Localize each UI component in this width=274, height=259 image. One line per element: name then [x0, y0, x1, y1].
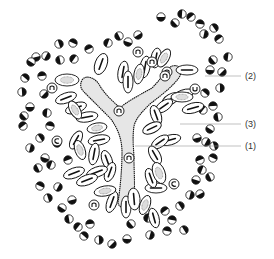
round-cell: [65, 215, 73, 223]
oval-cell: [92, 52, 111, 77]
lymphocyte-cell: [52, 136, 62, 146]
round-cell: [201, 89, 209, 97]
lymphocyte-cell: [114, 106, 124, 116]
round-cell: [215, 35, 223, 43]
round-cell: [85, 45, 93, 53]
oval-cell: [123, 71, 133, 93]
round-cell: [198, 166, 206, 174]
round-cell: [27, 58, 35, 66]
round-cell: [43, 109, 51, 117]
round-cell: [41, 154, 49, 162]
round-cell: [163, 227, 171, 235]
round-cell: [58, 204, 66, 212]
round-cell: [127, 220, 135, 228]
round-cell: [216, 84, 224, 92]
round-cell: [209, 102, 217, 110]
round-cell: [209, 154, 217, 162]
round-cell: [38, 72, 46, 80]
round-cell: [47, 161, 55, 169]
round-cell: [161, 207, 169, 215]
lymphocyte-cell: [89, 200, 99, 210]
round-cell: [26, 103, 34, 111]
lymphocyte-cell: [190, 84, 200, 94]
round-cell: [206, 125, 214, 133]
lymphocyte-cell: [124, 153, 134, 163]
round-cell: [192, 176, 200, 184]
round-cell: [180, 226, 188, 234]
diagram-canvas: [0, 0, 274, 259]
round-cell: [224, 53, 232, 61]
round-cell: [19, 122, 27, 130]
granular-cell: [171, 92, 193, 102]
round-cell: [157, 13, 165, 21]
round-cell: [56, 56, 64, 64]
label-3: (3): [245, 119, 256, 129]
round-cell: [74, 223, 82, 231]
round-cell: [200, 30, 208, 38]
lymphocyte-cell: [47, 83, 57, 93]
label-2: (2): [245, 71, 256, 81]
round-cell: [214, 113, 222, 121]
lymphocyte-cell: [133, 47, 143, 57]
round-cell: [206, 173, 214, 181]
round-cell: [146, 231, 154, 239]
oval-cell: [176, 65, 198, 75]
label-1: (1): [245, 141, 256, 151]
lymphocyte-cell: [147, 57, 157, 67]
round-cell: [186, 191, 194, 199]
round-cell: [168, 216, 176, 224]
oval-cell: [87, 133, 110, 147]
round-cell: [36, 182, 44, 190]
round-cell: [54, 183, 62, 191]
round-cell: [210, 24, 218, 32]
round-cell: [20, 112, 28, 120]
round-cell: [218, 68, 226, 76]
round-cell: [55, 40, 63, 48]
round-cell: [187, 13, 195, 21]
granular-cell: [86, 121, 107, 134]
round-cell: [176, 202, 184, 210]
oval-cell: [87, 142, 101, 165]
granular-cell: [55, 74, 79, 86]
round-cell: [86, 220, 94, 228]
round-cell: [44, 194, 52, 202]
round-cell: [26, 144, 34, 152]
lymphocyte-cell: [169, 179, 179, 189]
round-cell: [42, 52, 50, 60]
round-cell: [196, 20, 204, 28]
round-cell: [115, 32, 123, 40]
round-cell: [193, 134, 201, 142]
round-cell: [108, 240, 116, 248]
round-cell: [95, 236, 103, 244]
oval-cell: [147, 207, 162, 229]
round-cell: [124, 38, 132, 46]
round-cell: [69, 39, 77, 47]
round-cell: [34, 164, 42, 172]
lymphocyte-cell: [160, 71, 170, 81]
round-cell: [171, 19, 179, 27]
round-cell: [196, 156, 204, 164]
round-cell: [68, 196, 76, 204]
round-cell: [206, 66, 214, 74]
round-cell: [46, 122, 54, 130]
granular-cell: [132, 63, 145, 84]
round-cell: [202, 138, 210, 146]
round-cell: [21, 74, 29, 82]
round-cell: [70, 55, 78, 63]
round-cell: [178, 10, 186, 18]
round-cell: [80, 232, 88, 240]
round-cell: [196, 190, 204, 198]
round-cell: [134, 31, 142, 39]
round-cell: [36, 134, 44, 142]
round-cell: [123, 235, 131, 243]
round-cell: [209, 56, 217, 64]
round-cell: [64, 156, 72, 164]
round-cell: [18, 88, 26, 96]
round-cell: [40, 90, 48, 98]
round-cell: [104, 39, 112, 47]
